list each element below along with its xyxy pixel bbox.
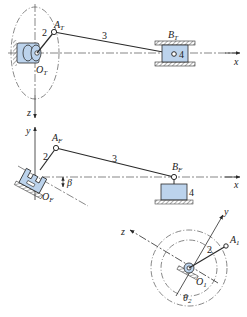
- axis-y-label: y: [223, 206, 229, 217]
- slider-guide-bottom: [155, 62, 195, 66]
- axis-z-label: z: [26, 107, 31, 118]
- point-A-label: AF: [51, 132, 63, 145]
- joint-BF: [171, 174, 176, 179]
- axis-x-label: x: [233, 56, 239, 67]
- joint-AT: [51, 29, 56, 34]
- ground-wall-top: [13, 40, 17, 66]
- axis-z-label: z: [120, 226, 125, 237]
- crank-label: 2: [207, 244, 212, 255]
- rod-label: 3: [112, 153, 117, 164]
- slider-ground: [155, 200, 193, 204]
- point-B-label: BT: [168, 29, 179, 42]
- rod-label: 3: [102, 30, 107, 41]
- origin-label: OT: [36, 64, 48, 77]
- joint-AF: [53, 145, 58, 150]
- point-A-label: A1: [229, 234, 240, 247]
- z-axis-arrow: [130, 230, 218, 283]
- axis-x-label: x: [233, 179, 239, 190]
- auxiliary-view: 2 A1 O1 θ2 y z: [120, 206, 240, 306]
- slider-label: 4: [179, 49, 184, 60]
- joint-BT: [172, 52, 177, 57]
- crank-label: 2: [42, 27, 47, 38]
- origin-label: OF: [42, 191, 54, 204]
- slider-block-4: [161, 184, 187, 200]
- theta-label: θ2: [183, 292, 192, 305]
- slider-crank-diagram: 2 3 4 AT BT OT x z 2 3 4 AF BF: [0, 0, 247, 317]
- axis-y-label: y: [25, 125, 31, 136]
- top-view: 2 3 4 AT BT OT x z: [8, 4, 240, 118]
- origin-label: O1: [196, 276, 207, 289]
- front-view: 2 3 4 AF BF OF β x y: [14, 125, 240, 206]
- point-B-label: BF: [172, 161, 183, 174]
- joint-A1: [224, 244, 228, 248]
- crank-label: 2: [43, 151, 48, 162]
- beta-label: β: [66, 177, 72, 188]
- inclined-bearing-block: [19, 168, 47, 193]
- slider-label: 4: [189, 187, 194, 198]
